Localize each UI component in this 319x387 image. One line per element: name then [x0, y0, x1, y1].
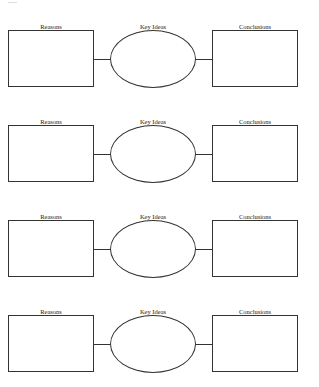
left-connector-line: [94, 249, 111, 250]
key-ideas-ellipse: [110, 220, 196, 278]
key-ideas-ellipse: [110, 30, 196, 88]
key-ideas-ellipse: [110, 315, 196, 373]
organizer-row-4: Reasons Key Ideas Conclusions: [0, 308, 319, 378]
left-connector-line: [94, 154, 111, 155]
conclusions-box: [212, 125, 298, 182]
organizer-row-3: Reasons Key Ideas Conclusions: [0, 213, 319, 283]
organizer-row-2: Reasons Key Ideas Conclusions: [0, 118, 319, 188]
key-ideas-ellipse: [110, 125, 196, 183]
reasons-box: [8, 125, 94, 182]
organizer-row-1: Reasons Key Ideas Conclusions: [0, 23, 319, 93]
left-connector-line: [94, 59, 111, 60]
right-connector-line: [195, 59, 213, 60]
reasons-box: [8, 315, 94, 372]
conclusions-box: [212, 315, 298, 372]
corner-mark: [8, 2, 17, 3]
conclusions-box: [212, 30, 298, 87]
conclusions-box: [212, 220, 298, 277]
reasons-box: [8, 30, 94, 87]
reasons-box: [8, 220, 94, 277]
right-connector-line: [195, 154, 213, 155]
right-connector-line: [195, 344, 213, 345]
right-connector-line: [195, 249, 213, 250]
left-connector-line: [94, 344, 111, 345]
